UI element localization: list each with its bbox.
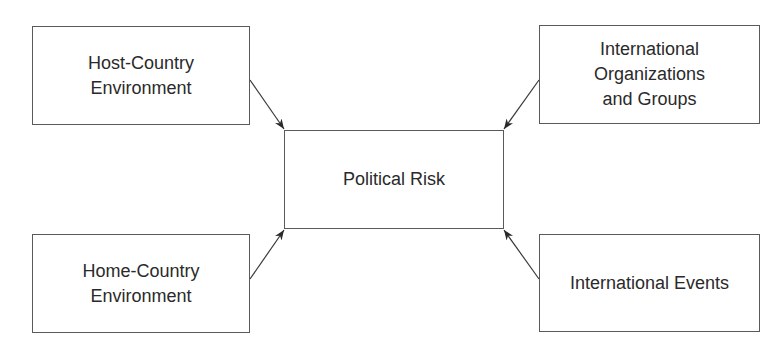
home-country-environment-box: Home-Country Environment (32, 234, 250, 333)
host-country-environment-label: Host-Country Environment (88, 51, 194, 101)
home-country-environment-label: Home-Country Environment (82, 259, 199, 309)
international-organizations-box: International Organizations and Groups (539, 25, 760, 124)
international-events-label: International Events (570, 271, 729, 296)
political-risk-label: Political Risk (343, 167, 445, 192)
political-risk-box: Political Risk (284, 130, 504, 229)
arrow-home-to-risk (250, 230, 284, 279)
arrow-host-to-risk (250, 80, 284, 129)
international-events-box: International Events (539, 234, 760, 332)
arrow-events-to-risk (504, 230, 539, 279)
arrow-orgs-to-risk (504, 80, 539, 129)
host-country-environment-box: Host-Country Environment (32, 26, 250, 125)
international-organizations-label: International Organizations and Groups (594, 37, 705, 112)
